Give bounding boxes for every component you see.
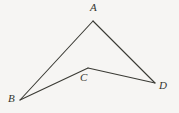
geometry-figure-canvas: A B C D <box>0 0 179 113</box>
edge-c-to-d <box>88 68 155 83</box>
vertex-label-c: C <box>80 72 87 83</box>
vertex-label-a: A <box>90 2 97 13</box>
quadrilateral-drawing <box>0 0 179 113</box>
edge-b-to-c <box>20 68 88 100</box>
edge-a-to-b <box>20 21 93 100</box>
vertex-label-d: D <box>159 80 167 91</box>
edge-d-to-a <box>93 21 155 83</box>
vertex-label-b: B <box>8 93 15 104</box>
